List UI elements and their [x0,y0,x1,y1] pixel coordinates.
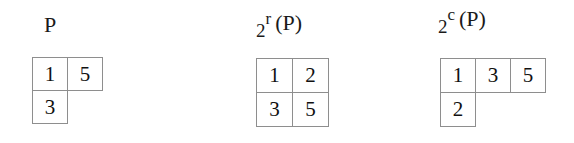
young-tableaux-figure: P 1 5 3 2r(P) 1 2 3 5 [0,0,574,143]
tableau-label-row-operator: 2r(P) [256,12,302,34]
tableau-cell: 2 [292,58,329,93]
tableau-cell: 5 [67,57,103,91]
label-argument-row-operator: (P) [275,10,302,35]
tableau-row: 3 [32,90,102,123]
tableau-row: 2 [440,92,545,126]
tableau-label-column-operator: 2c(P) [438,8,486,30]
tableau-grid-column-operator: 1 3 5 2 [440,58,545,126]
label-argument-column-operator: (P) [459,6,486,31]
tableau-row: 1 3 5 [440,58,545,92]
tableau-cell: 3 [475,58,511,93]
tableau-cell: 3 [32,90,68,124]
tableau-cell: 5 [510,58,546,93]
tableau-cell: 1 [32,57,68,91]
label-base-column-operator: 2 [438,16,448,37]
tableau-row: 3 5 [256,92,328,126]
label-base-p: P [44,12,56,37]
label-superscript-row-operator: r [266,9,272,28]
tableau-row: 1 5 [32,57,102,90]
label-superscript-column-operator: c [448,5,456,24]
tableau-row: 1 2 [256,58,328,92]
label-base-row-operator: 2 [256,20,266,41]
tableau-cell: 2 [440,92,476,127]
tableau-cell: 1 [440,58,476,93]
tableau-cell: 3 [256,92,293,127]
tableau-grid-row-operator: 1 2 3 5 [256,58,328,126]
tableau-grid-p: 1 5 3 [32,57,102,123]
tableau-cell: 5 [292,92,329,127]
tableau-label-p: P [44,14,56,36]
tableau-cell: 1 [256,58,293,93]
